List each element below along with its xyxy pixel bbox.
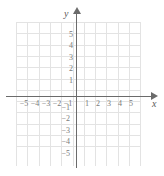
grid-line-vertical [140,22,141,166]
y-tick-label: −5 [60,150,70,158]
y-tick-label: −4 [60,138,70,146]
grid-line-vertical [118,22,119,166]
y-axis-label: y [64,9,68,19]
grid-line-vertical [27,22,28,166]
grid-line-vertical [39,22,40,166]
grid-line-vertical [129,22,130,166]
grid-line-vertical [84,22,85,166]
y-tick-label: 4 [63,42,73,50]
grid-lines [16,22,140,166]
grid-line-horizontal [16,135,140,136]
y-tick-label: −2 [60,115,70,123]
y-tick-label: 1 [63,77,73,85]
grid-line-horizontal [16,56,140,57]
grid-line-horizontal [16,90,140,91]
grid-line-horizontal [16,79,140,80]
y-tick-label: −3 [60,127,70,135]
y-tick-label: −1 [60,104,70,112]
grid-line-horizontal [16,22,140,23]
x-tick-label: 5 [125,100,137,108]
grid-line-vertical [95,22,96,166]
x-axis-line [6,96,154,97]
x-axis-label: x [152,99,156,109]
y-axis-line [76,12,77,168]
grid-line-horizontal [16,146,140,147]
y-tick-label: 5 [63,31,73,39]
y-tick-label: 2 [63,65,73,73]
grid-line-vertical [16,22,17,166]
grid-line-horizontal [16,112,140,113]
grid-line-horizontal [16,45,140,46]
grid-line-vertical [106,22,107,166]
coordinate-plane: x y −5−4−3−2−112345 54321−1−2−3−4−5 [0,0,164,176]
grid-line-horizontal [16,33,140,34]
grid-line-vertical [50,22,51,166]
arrow-up-icon [73,7,81,14]
y-tick-label: 3 [63,54,73,62]
grid-line-horizontal [16,67,140,68]
grid-line-horizontal [16,124,140,125]
